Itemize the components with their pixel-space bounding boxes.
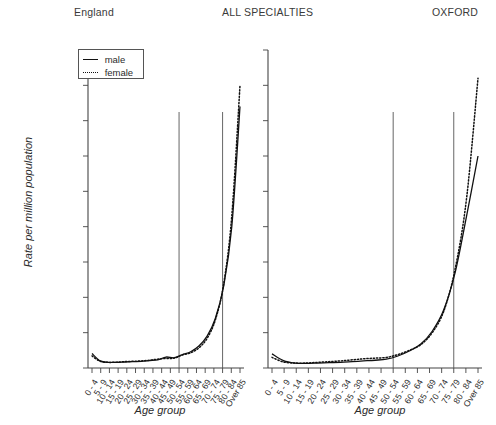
x-axis-title-left: Age group	[100, 404, 220, 416]
legend-solid-line-icon	[83, 55, 98, 63]
axis-lines	[83, 50, 482, 373]
series-line-female	[92, 85, 240, 362]
x-axis-title-right: Age group	[320, 404, 440, 416]
series-line-male	[92, 107, 240, 363]
legend-item-female: female	[83, 66, 133, 78]
plot-canvas	[0, 0, 496, 425]
legend-box: male female	[78, 49, 144, 79]
legend-item-male: male	[83, 53, 125, 65]
series-line-female	[272, 78, 478, 363]
reference-lines	[179, 112, 454, 368]
figure-container: England ALL SPECIALTIES OXFORD Rate per …	[0, 0, 496, 425]
data-series-lines	[92, 78, 478, 363]
legend-dotted-line-icon	[83, 68, 98, 76]
legend-label-male: male	[105, 54, 126, 65]
series-line-male	[272, 156, 478, 363]
legend-label-female: female	[105, 67, 134, 78]
